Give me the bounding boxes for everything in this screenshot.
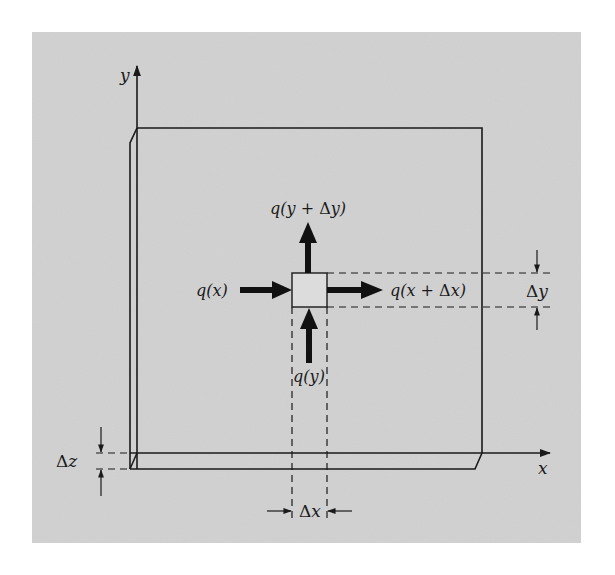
label-q-x: q(x) (196, 281, 228, 300)
label-q-y-plus-dy: q(y + Δy) (270, 199, 346, 218)
label-delta-x: Δx (299, 501, 321, 521)
label-q-y: q(y) (293, 367, 325, 386)
label-q-x-plus-dx: q(x + Δx) (390, 281, 466, 300)
control-volume-element (292, 273, 327, 307)
label-delta-y: Δy (526, 281, 548, 301)
heat-flux-element-diagram: y x q(y + Δy) q(x) q(x + Δx) q(y) Δy Δx … (0, 0, 615, 575)
y-axis-label: y (119, 65, 130, 85)
label-delta-z: Δz (56, 451, 78, 471)
x-axis-label: x (538, 458, 548, 478)
